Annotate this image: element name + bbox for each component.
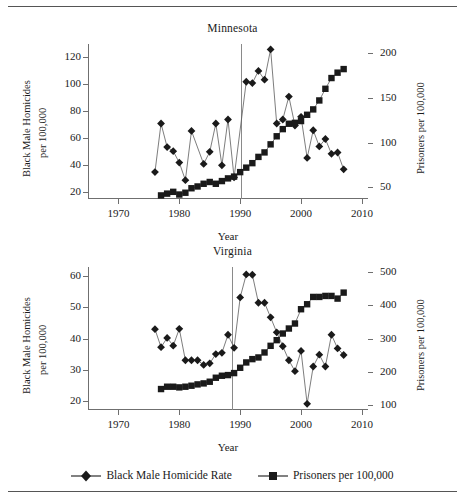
data-point-square (164, 384, 170, 390)
data-point-diamond (279, 116, 287, 124)
data-point-square (304, 301, 310, 307)
data-point-diamond (175, 159, 183, 167)
data-point-square (261, 149, 267, 155)
data-point-diamond (261, 76, 269, 84)
x-axis-tick-label: 2000 (281, 208, 321, 219)
x-axis-tick (179, 410, 180, 415)
data-point-diamond (157, 120, 165, 128)
data-point-diamond (328, 150, 336, 158)
legend-label-homicide: Black Male Homicide Rate (106, 470, 232, 482)
y2-axis-tick-label: 150 (380, 92, 397, 103)
data-point-square (280, 330, 286, 336)
y-axis-tick-label: 20 (47, 186, 81, 197)
data-point-square (255, 154, 261, 160)
data-point-diamond (181, 176, 189, 184)
data-point-square (200, 181, 206, 187)
y2-axis-tick (368, 272, 373, 273)
diamond-marker-icon (71, 470, 101, 482)
y2-axis-tick (368, 339, 373, 340)
data-point-diamond (279, 342, 287, 350)
x-axis-tick (240, 199, 241, 204)
data-point-square (334, 295, 340, 301)
data-point-square (316, 294, 322, 300)
y-axis-tick-label: 50 (47, 301, 81, 312)
data-point-square (310, 106, 316, 112)
x-axis-title-virginia: Year (88, 442, 368, 453)
data-point-diamond (175, 325, 183, 333)
data-point-diamond (200, 160, 208, 168)
y2-axis-tick-label: 400 (380, 299, 397, 310)
data-point-square (243, 164, 249, 170)
data-point-diamond (163, 143, 171, 151)
data-point-square (286, 121, 292, 127)
data-point-square (274, 337, 280, 343)
data-point-diamond (224, 331, 232, 339)
x-axis-tick (301, 410, 302, 415)
data-point-diamond (340, 165, 348, 173)
plot-area-minnesota (88, 44, 368, 199)
x-axis-tick (362, 199, 363, 204)
y2-axis-tick-label: 50 (380, 181, 391, 192)
y2-axis-title-minnesota: Prisoners per 100,000 (416, 82, 427, 174)
data-point-square (286, 325, 292, 331)
data-point-diamond (267, 45, 275, 53)
data-point-diamond (169, 342, 177, 350)
x-axis-tick (301, 199, 302, 204)
x-axis-tick (362, 410, 363, 415)
data-point-square (158, 386, 164, 392)
data-point-diamond (255, 67, 263, 75)
data-point-diamond (291, 367, 299, 375)
y2-axis-tick-label: 100 (380, 399, 397, 410)
data-point-square (328, 75, 334, 81)
y2-axis-tick (368, 98, 373, 99)
data-point-square (219, 373, 225, 379)
data-point-diamond (242, 78, 250, 86)
data-point-square (170, 384, 176, 390)
data-point-diamond (236, 294, 244, 302)
y2-axis-tick-label: 300 (380, 333, 397, 344)
data-point-diamond (273, 120, 281, 128)
data-point-square (207, 379, 213, 385)
data-point-square (194, 381, 200, 387)
y2-axis-tick-label: 200 (380, 47, 397, 58)
data-point-square (340, 66, 346, 72)
data-point-square (182, 190, 188, 196)
x-axis-tick-label: 1980 (159, 208, 199, 219)
x-axis-tick-label: 2010 (342, 419, 382, 430)
data-point-diamond (194, 356, 202, 364)
y-axis-tick-label: 80 (47, 105, 81, 116)
data-point-square (243, 359, 249, 365)
y-axis-title-line1: Black Male Homicides (21, 80, 32, 177)
legend-label-prisoners: Prisoners per 100,000 (293, 470, 394, 482)
series-layer (88, 44, 368, 199)
x-axis-tick-label: 2000 (281, 419, 321, 430)
data-point-diamond (309, 126, 317, 134)
y-axis-tick-label: 40 (47, 159, 81, 170)
data-point-diamond (248, 271, 256, 279)
data-point-diamond (206, 148, 214, 156)
data-point-diamond (309, 363, 317, 371)
data-point-square (188, 383, 194, 389)
data-point-square (213, 181, 219, 187)
y-axis-tick-label: 40 (47, 333, 81, 344)
data-point-diamond (230, 344, 238, 352)
plot-area-virginia (88, 267, 368, 410)
data-point-diamond (212, 120, 220, 128)
data-point-diamond (248, 79, 256, 87)
data-point-diamond (285, 356, 293, 364)
data-point-diamond (303, 154, 311, 162)
y-axis-tick-label: 120 (47, 51, 81, 62)
y-axis-tick-label: 100 (47, 78, 81, 89)
figure-root: Minnesota Black Male Homicides Prisoners… (0, 0, 465, 500)
data-point-square (213, 375, 219, 381)
data-point-square (292, 120, 298, 126)
data-point-square (207, 179, 213, 185)
data-point-square (298, 306, 304, 312)
data-point-square (261, 349, 267, 355)
data-point-square (322, 293, 328, 299)
x-axis-tick-label: 1970 (98, 208, 138, 219)
y-axis-tick-label: 30 (47, 364, 81, 375)
data-point-diamond (273, 328, 281, 336)
y2-axis-tick-label: 500 (380, 266, 397, 277)
data-point-square (231, 370, 237, 376)
